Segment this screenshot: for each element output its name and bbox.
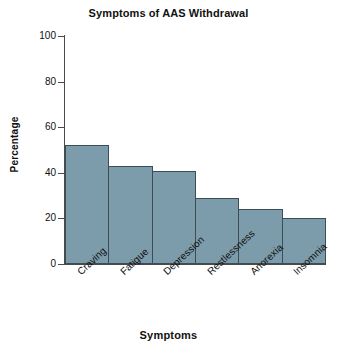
y-axis-tick-label-wrap: 60: [26, 122, 56, 132]
plot-area: [65, 36, 325, 264]
y-axis-tick-label: 80: [30, 77, 56, 87]
y-axis-tick-label-wrap: 20: [26, 213, 56, 223]
y-axis-tick-label-wrap: 40: [26, 168, 56, 178]
x-axis-line: [64, 264, 326, 265]
y-axis-tick-label: 40: [30, 168, 56, 178]
y-axis-tick-label-wrap: 0: [26, 259, 56, 269]
chart-title: Symptoms of AAS Withdrawal: [0, 7, 337, 19]
y-axis-tick-label: 20: [30, 213, 56, 223]
y-axis-tick-label: 0: [30, 259, 56, 269]
chart-figure: Symptoms of AAS Withdrawal Percentage 02…: [0, 0, 337, 349]
y-axis-tick-label-wrap: 100: [26, 31, 56, 41]
y-axis-tick-label: 100: [30, 31, 56, 41]
y-axis-tick-label-wrap: 80: [26, 77, 56, 87]
y-axis-tick-label: 60: [30, 122, 56, 132]
y-axis-label: Percentage: [9, 110, 20, 180]
x-axis-label: Symptoms: [0, 329, 337, 341]
